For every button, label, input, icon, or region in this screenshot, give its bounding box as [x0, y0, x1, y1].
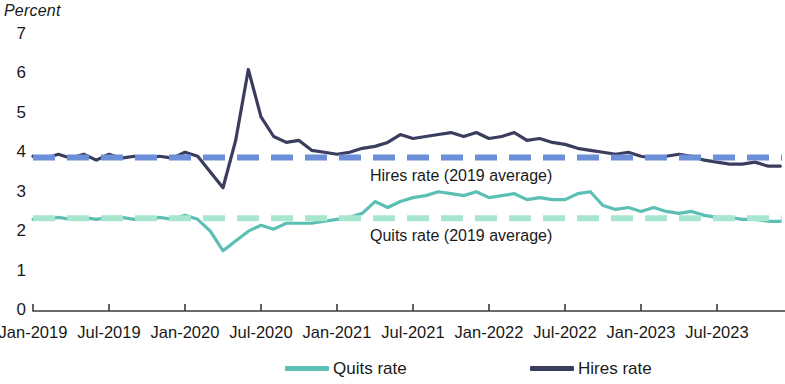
- legend-swatch-icon: [285, 366, 329, 371]
- x-tick-label: Jul-2023: [685, 324, 748, 341]
- legend-label: Hires rate: [578, 360, 652, 377]
- x-tick-label: Jul-2022: [533, 324, 596, 341]
- chart-figure: Percent 01234567 Hires rate (2019 averag…: [0, 0, 785, 384]
- legend-item[interactable]: Hires rate: [530, 360, 652, 377]
- x-tick-label: Jul-2020: [229, 324, 292, 341]
- x-tick-label: Jan-2019: [0, 324, 67, 341]
- x-tick-label: Jan-2021: [303, 324, 372, 341]
- x-tick-label: Jan-2022: [455, 324, 524, 341]
- chart-legend: Quits rateHires rate: [0, 356, 785, 382]
- legend-label: Quits rate: [333, 360, 407, 377]
- legend-item[interactable]: Quits rate: [285, 360, 407, 377]
- annotation-label: Hires rate (2019 average): [370, 168, 552, 184]
- x-tick-label: Jan-2020: [151, 324, 220, 341]
- legend-swatch-icon: [530, 366, 574, 371]
- x-tick-label: Jul-2021: [381, 324, 444, 341]
- x-tick-label: Jul-2019: [77, 324, 140, 341]
- x-axis-line: [33, 304, 785, 311]
- annotation-label: Quits rate (2019 average): [370, 228, 552, 244]
- x-tick-label: Jan-2023: [607, 324, 676, 341]
